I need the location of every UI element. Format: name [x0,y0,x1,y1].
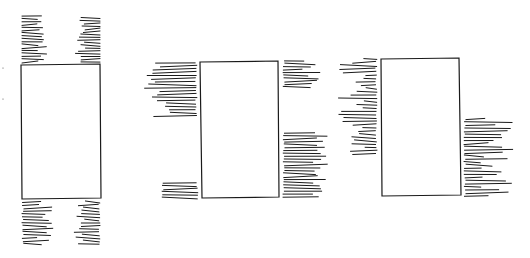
figures-group [2,16,512,245]
hatch-right-lower [283,133,327,197]
hatch-left [339,59,378,155]
hatch-top-left [22,16,47,63]
rectangle-outline [381,58,461,196]
hatch-bottom-right [74,201,100,244]
hatch-right-lower [464,118,513,196]
hatch-right-upper [283,61,320,88]
figure-2 [145,61,328,199]
hatch-left-lower [162,183,198,199]
rectangle-outline [21,64,101,199]
rectangle-outline [200,61,279,198]
hatch-bottom-left [22,202,53,245]
stray-mark [2,98,3,99]
hatch-top-right [76,18,101,63]
stray-mark [2,67,3,68]
figure-1 [21,16,101,245]
diagram-canvas [0,0,530,258]
hatch-left-upper [145,63,197,117]
figure-3 [339,58,513,196]
sketch-diagram [0,0,530,258]
